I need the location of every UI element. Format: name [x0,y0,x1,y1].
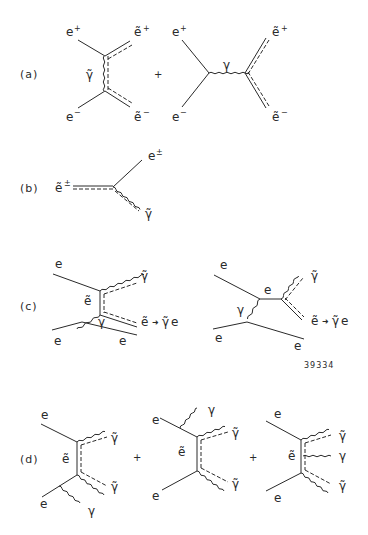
photino-wavy [77,475,104,495]
decay-arrow: ➜ [152,318,159,327]
photino-wavy [197,471,224,491]
label-e: e [119,334,126,348]
electron-line [160,418,197,437]
label-e: e [40,497,47,511]
photino-dash [285,278,303,300]
selectron-line [245,38,266,73]
photon-wavy [180,408,197,428]
label-photon: γ [237,303,244,317]
panel-c: (c) e ẽ γ γ̃ ẽ ➜ γ̃ e e e [20,257,348,370]
selectron-dash [248,72,269,106]
photino-propagator [103,56,105,91]
selectron-dash [248,40,269,74]
label-photino: γ̃ [339,479,346,493]
label-etilde: ẽ [272,25,279,39]
electron-line [247,322,304,339]
sup-plus: + [143,24,150,33]
sup-minus: − [281,108,288,117]
electron-line [182,40,209,73]
photino-wavy [281,276,299,299]
label-etilde: ẽ [141,315,148,329]
diagram-a2: e + e − γ ẽ + ẽ − [172,24,288,124]
electron-line [113,160,142,187]
label-e: e [172,25,179,39]
photino-dash [81,437,107,445]
panel-label-b: (b) [20,182,39,195]
electron-line [162,471,197,490]
diagram-b: ẽ ± e ± γ̃ [55,148,163,221]
electron-line [214,275,260,299]
electron-line [78,91,105,108]
photino-dash [115,191,139,211]
label-photino: γ̃ [145,207,152,221]
label-e: e [41,408,48,422]
label-e: e [54,334,61,348]
feynman-diagram-figure: (a) e + e − ẽ + ẽ − γ̃ + [0,0,368,535]
diagram-d2: e γ ẽ γ̃ γ̃ e [152,403,239,503]
label-e: e [66,25,73,39]
photino-dash [201,468,228,482]
photino-wavy [77,431,105,442]
selectron-line [245,73,266,108]
electron-line [266,473,301,491]
photino-dash [305,470,331,484]
label-etilde: ẽ [178,445,185,459]
label-photino: γ̃ [111,480,118,494]
label-etilde: ẽ [84,294,91,308]
decay-arrow: ➜ [322,317,329,326]
electron-line [182,73,209,107]
panel-label-c: (c) [20,300,38,313]
label-photino: γ̃ [232,477,239,491]
label-etilde: ẽ [134,110,141,124]
label-photino: γ̃ [332,314,339,328]
sup-pm: ± [64,179,71,188]
photon-propagator [209,72,249,74]
panel-label-d: (d) [20,453,39,466]
label-photon: γ [88,504,95,518]
label-photino: γ̃ [86,68,93,82]
label-e: e [172,110,179,124]
plus-sign: + [133,452,141,463]
diagram-d3: e ẽ γ̃ γ γ̃ e [266,407,346,505]
photino-wavy [301,473,328,493]
label-e: e [152,413,159,427]
label-e: e [148,149,155,163]
label-e: e [274,491,281,505]
sup-plus: + [180,24,187,33]
sup-pm: ± [156,148,163,157]
plus-sign: + [154,69,162,80]
label-etilde: ẽ [272,110,279,124]
selectron-line [281,299,302,320]
label-photon: γ [208,403,215,417]
photino-dash [81,472,107,486]
sup-plus: + [281,24,288,33]
figure-number: 39334 [304,361,334,370]
selectron-dash [285,298,304,317]
photon-wavy [247,299,260,319]
label-e: e [171,315,178,329]
panel-b: (b) ẽ ± e ± γ̃ [20,148,163,221]
photino-dash [104,283,137,294]
label-etilde: ẽ [288,449,295,463]
label-e: e [215,331,222,345]
label-etilde: ẽ [62,452,69,466]
label-e: e [55,257,62,271]
label-photino: γ̃ [311,269,318,283]
label-photon: γ [223,58,230,72]
electron-line [213,322,247,329]
electron-line [266,421,301,440]
diagram-d1: e ẽ γ̃ γ̃ e γ [40,408,118,518]
label-e: e [341,314,348,328]
label-etilde: ẽ [55,181,62,195]
panel-d: (d) e ẽ γ̃ γ̃ e γ + [20,403,346,518]
label-photino: γ̃ [141,269,148,283]
electron-line [53,274,100,291]
plus-sign: + [249,452,257,463]
label-photon: γ [98,315,105,329]
photino-wavy [197,426,225,437]
photon-wavy [303,455,331,457]
label-photino: γ̃ [232,426,239,440]
label-e: e [274,407,281,421]
panel-label-a: (a) [20,68,38,81]
sup-plus: + [74,24,81,33]
